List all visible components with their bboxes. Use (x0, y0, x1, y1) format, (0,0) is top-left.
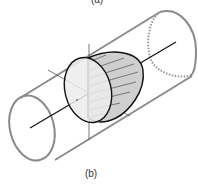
pipe-flow-diagram (0, 0, 198, 186)
pipe-back-opening-hidden (148, 12, 190, 76)
panel-label-b: (b) (76, 168, 106, 179)
pipe-front-opening (3, 91, 62, 166)
center-point (76, 99, 78, 101)
pipe-back-opening-solid (160, 11, 196, 76)
